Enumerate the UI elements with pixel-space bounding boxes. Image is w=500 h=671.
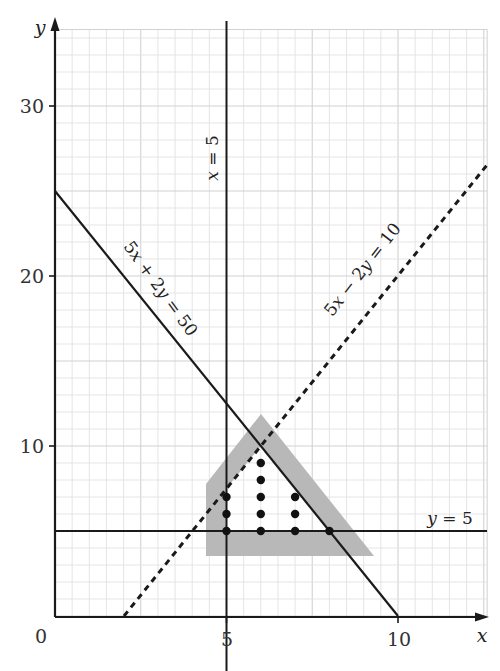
x-tick-label-5: 5: [221, 628, 233, 650]
label-5x-plus-2y-equals-50: 5x + 2y = 50: [120, 237, 202, 340]
integer-point: [222, 527, 230, 535]
integer-point: [291, 527, 299, 535]
integer-point: [222, 510, 230, 518]
integer-point: [257, 476, 265, 484]
svg-text:5x + 2y = 50: 5x + 2y = 50: [120, 237, 202, 340]
svg-text:y = 5: y = 5: [426, 508, 472, 528]
linear-programming-chart: 30 20 10 0 5 10 y x x = 5 y = 5 5x + 2y …: [0, 0, 500, 671]
y-tick-label-30: 30: [20, 95, 44, 117]
label-y-equals-5: y = 5: [426, 508, 472, 528]
y-tick-label-10: 10: [20, 435, 44, 457]
integer-point: [222, 493, 230, 501]
label-x-equals-5: x = 5: [202, 135, 222, 180]
origin-label: 0: [35, 625, 47, 647]
x-tick-label-10: 10: [387, 628, 411, 650]
integer-point: [291, 510, 299, 518]
integer-point: [257, 510, 265, 518]
y-axis-label: y: [34, 16, 46, 38]
y-tick-label-20: 20: [20, 265, 44, 287]
y-axis-arrow-icon: [51, 17, 60, 31]
svg-text:x = 5: x = 5: [202, 135, 222, 180]
integer-point: [257, 527, 265, 535]
integer-point: [325, 527, 333, 535]
svg-text:5x − 2y = 10: 5x − 2y = 10: [320, 219, 405, 320]
x-axis-label: x: [477, 624, 488, 646]
integer-point: [257, 493, 265, 501]
integer-point: [257, 459, 265, 467]
integer-point: [291, 493, 299, 501]
label-5x-minus-2y-equals-10: 5x − 2y = 10: [320, 219, 405, 320]
